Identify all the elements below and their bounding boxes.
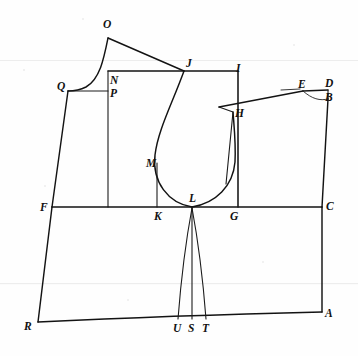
- hem-R-to-A: [38, 312, 322, 322]
- point-label-p: P: [110, 87, 118, 99]
- point-label-g: G: [230, 210, 239, 222]
- draft-stroke-layer: [38, 38, 328, 322]
- point-label-o: O: [103, 18, 111, 30]
- point-label-m: M: [145, 157, 157, 169]
- point-label-n: N: [109, 74, 119, 86]
- point-label-s: S: [188, 322, 194, 334]
- front-shoulder-O-to-J: [108, 38, 184, 71]
- paper-speckles: [0, 18, 358, 301]
- waist-dart-left-L-to-U: [178, 208, 192, 319]
- left-side-Q-to-F: [52, 91, 68, 207]
- pattern-draft-figure: OQNPJIEDBHMLFKGCRAUST: [0, 0, 358, 356]
- point-label-a: A: [324, 307, 333, 319]
- right-side-B-to-C: [322, 99, 328, 207]
- armhole-J-to-M-to-L: [155, 71, 192, 207]
- waist-dart-right-L-to-T: [192, 208, 206, 319]
- point-label-c: C: [326, 200, 334, 212]
- point-label-k: K: [153, 210, 163, 222]
- point-label-h: H: [234, 107, 245, 119]
- point-label-j: J: [185, 57, 193, 69]
- point-label-i: I: [235, 62, 241, 74]
- point-label-r: R: [23, 320, 32, 332]
- point-label-l: L: [188, 192, 196, 204]
- back-dart-sliver-H: [219, 107, 233, 184]
- point-label-q: Q: [57, 80, 65, 92]
- pattern-draft-canvas: OQNPJIEDBHMLFKGCRAUST: [0, 0, 358, 356]
- point-label-e: E: [297, 78, 306, 90]
- back-shoulder-H-to-E: [219, 91, 303, 107]
- point-label-d: D: [324, 77, 334, 89]
- neck-curve-O-to-Q: [68, 38, 108, 91]
- point-label-f: F: [39, 201, 48, 213]
- point-label-u: U: [173, 322, 182, 334]
- point-label-t: T: [202, 322, 210, 334]
- point-label-b: B: [324, 91, 333, 103]
- draft-point-labels: OQNPJIEDBHMLFKGCRAUST: [23, 18, 334, 334]
- left-side-F-to-R: [38, 207, 52, 322]
